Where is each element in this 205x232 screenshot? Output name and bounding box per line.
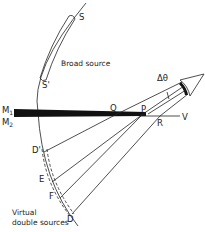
label-delta-theta: Δθ	[157, 73, 168, 83]
label-s-prime: S'	[42, 80, 50, 90]
label-p: P	[141, 104, 146, 114]
label-e: E	[39, 174, 44, 184]
label-virtual: Virtual	[12, 208, 37, 217]
label-s: S	[79, 12, 84, 22]
label-m1: M1	[2, 105, 13, 116]
label-double-sources: double sources	[12, 218, 69, 227]
label-f: F	[49, 191, 54, 201]
mirror-bar	[14, 109, 146, 117]
virtual-source-2	[47, 149, 74, 214]
interferometer-diagram: S S' Broad source M1 M2 Q P R V Δθ D' E …	[0, 0, 205, 232]
label-broad-source: Broad source	[61, 59, 111, 68]
eye-icon	[179, 74, 204, 96]
virtual-source-1	[42, 149, 70, 216]
label-d-prime: D'	[32, 145, 41, 155]
label-m2: M2	[2, 117, 13, 128]
label-r: R	[157, 118, 163, 128]
label-v: V	[182, 112, 188, 122]
label-q: Q	[110, 103, 117, 113]
broad-source	[40, 15, 75, 80]
